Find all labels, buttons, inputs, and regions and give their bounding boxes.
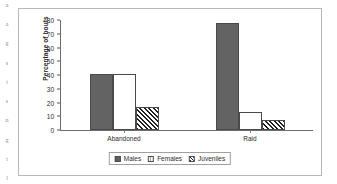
legend-swatch-males-icon — [115, 156, 121, 162]
y-axis-tick-label: 50 — [47, 58, 54, 65]
edge-fragment: s — [6, 98, 8, 105]
edge-fragment: n — [6, 117, 9, 124]
legend-item-males: Males — [115, 155, 141, 162]
bar-females-abandoned — [113, 74, 136, 130]
edge-fragment: a — [6, 2, 9, 9]
legend-item-juveniles: Juveniles — [189, 155, 225, 162]
legend-label: Juveniles — [198, 155, 225, 162]
chart-legend: MalesFemalesJuveniles — [109, 152, 231, 165]
x-axis-category-label: Abandoned — [107, 135, 140, 142]
edge-fragment: g — [6, 40, 9, 47]
x-axis-tick-mark — [124, 130, 125, 133]
legend-label: Females — [157, 155, 182, 162]
legend-swatch-females-icon — [148, 156, 154, 162]
bar-males-abandoned — [90, 74, 113, 130]
y-axis-tick-labels: 01020304050607080 — [35, 20, 57, 130]
y-axis-tick-label: 60 — [47, 44, 54, 51]
legend-swatch-juveniles-icon — [189, 156, 195, 162]
bar-juveniles-abandoned — [136, 107, 159, 130]
x-axis-group-ticks — [61, 130, 313, 134]
chart-figure-frame: Percentage of bouts 01020304050607080 Ab… — [18, 8, 322, 176]
bar-females-raid — [239, 112, 262, 130]
y-axis-tick-label: 10 — [47, 113, 54, 120]
legend-label: Males — [124, 155, 141, 162]
y-axis-tick-label: 0 — [50, 127, 54, 134]
x-axis-category-label: Raid — [243, 135, 256, 142]
x-axis-tick-mark — [250, 130, 251, 133]
edge-fragment: t — [6, 79, 8, 86]
edge-fragment: t — [6, 156, 8, 163]
bar-males-raid — [216, 23, 239, 130]
legend-item-females: Females — [148, 155, 182, 162]
y-axis-tick-label: 70 — [47, 30, 54, 37]
x-axis-category-labels: AbandonedRaid — [61, 135, 313, 147]
edge-fragment: a — [6, 21, 9, 28]
edge-fragment: s — [6, 60, 8, 67]
page-edge-text-fragments: a a g s t s n g t l — [1, 2, 13, 182]
y-axis-tick-label: 20 — [47, 99, 54, 106]
edge-fragment: g — [6, 137, 9, 144]
y-axis-tick-label: 80 — [47, 17, 54, 24]
y-axis-tick-label: 30 — [47, 85, 54, 92]
edge-fragment: l — [6, 175, 8, 182]
bar-juveniles-raid — [262, 120, 285, 130]
bar-series-container — [61, 20, 313, 130]
y-axis-tick-label: 40 — [47, 72, 54, 79]
